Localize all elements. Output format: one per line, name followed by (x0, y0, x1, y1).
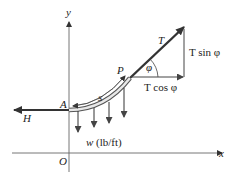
y-axis-label: y (65, 6, 71, 18)
point-p-label: P (116, 64, 124, 76)
h-force-label: H (22, 112, 32, 124)
tension-label: T (158, 34, 165, 46)
horizontal-component-label: T cos φ (144, 81, 177, 93)
arc-length-label: s (98, 91, 102, 103)
angle-label: φ (146, 61, 152, 73)
load-label: w (lb/ft) (86, 136, 122, 149)
cable-force-diagram: y x O H s A P w (lb/ft) T T cos φ T sin … (0, 0, 228, 180)
vertical-component-label: T sin φ (189, 46, 220, 58)
load-label-text: (lb/ft) (93, 136, 122, 149)
origin-label: O (59, 155, 67, 167)
point-a-label: A (59, 98, 67, 110)
x-axis-label: x (218, 147, 224, 159)
